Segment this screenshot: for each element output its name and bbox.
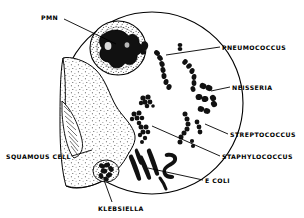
label-pneumococcus: PNEUMOCOCCUS [222,44,286,52]
label-squamous-cell: SQUAMOUS CELL [6,153,71,161]
klebsiella-encapsulated-rods [93,160,119,182]
label-klebsiella: KLEBSIELLA [98,205,144,213]
label-staphylococcus: STAPHYLOCOCCUS [222,153,293,161]
label-neisseria: NEISSERIA [232,84,272,92]
gram-stain-figure: PMN PNEUMOCOCCUS NEISSERIA STREPTOCOCCUS… [0,0,304,218]
label-streptococcus: STREPTOCOCCUS [230,131,296,139]
label-ecoli: E COLI [205,177,230,185]
label-pmn: PMN [41,14,58,22]
microscopic-field-illustration [0,0,304,218]
